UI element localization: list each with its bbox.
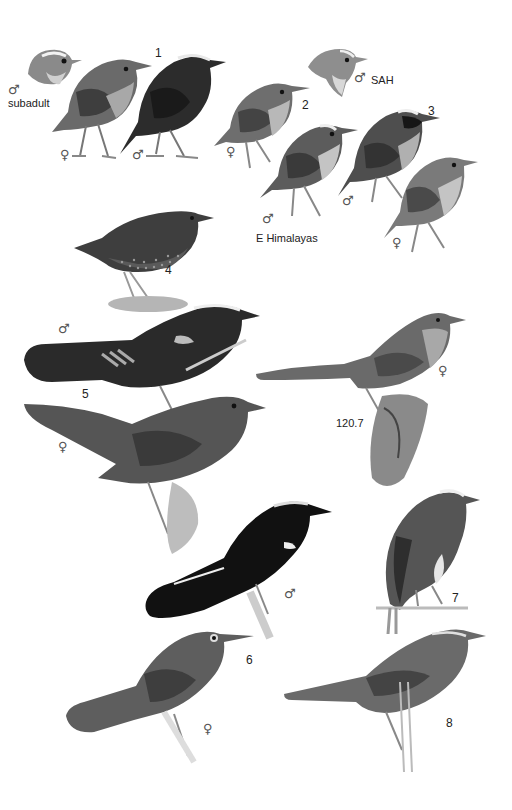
male-symbol: ♂ xyxy=(132,148,144,161)
female-symbol: ♀ xyxy=(203,722,213,735)
label-species-1: 1 xyxy=(155,47,162,59)
label-species-6: 6 xyxy=(246,654,253,666)
male-symbol: ♂ xyxy=(354,71,366,84)
label-sah: SAH xyxy=(371,75,394,86)
male-symbol: ♂ xyxy=(342,194,354,207)
bird-8-illustration xyxy=(282,622,486,772)
label-species-4: 4 xyxy=(165,264,172,276)
label-species-2: 2 xyxy=(302,99,309,111)
label-species-7: 7 xyxy=(452,592,459,604)
bird-120-7-illustration xyxy=(254,308,466,504)
label-subadult: subadult xyxy=(8,98,50,109)
male-symbol: ♂ xyxy=(8,83,20,96)
label-120-7: 120.7 xyxy=(336,418,364,429)
label-species-3: 3 xyxy=(428,105,435,117)
bird-plate: ♂ subadult ♀ 1 ♂ ♂ SAH ♀ 2 xyxy=(0,0,512,810)
bird-7-illustration xyxy=(376,484,480,634)
bird-6-male-illustration xyxy=(144,498,334,638)
bird-6-female-illustration xyxy=(64,622,256,762)
female-symbol: ♀ xyxy=(438,364,448,377)
female-symbol: ♀ xyxy=(60,148,70,161)
male-symbol: ♂ xyxy=(262,212,274,225)
female-symbol: ♀ xyxy=(226,145,236,158)
male-symbol: ♂ xyxy=(284,587,296,600)
label-e-himalayas: E Himalayas xyxy=(256,233,318,244)
bird-4-illustration xyxy=(72,194,216,314)
label-species-8: 8 xyxy=(446,717,453,729)
female-symbol: ♀ xyxy=(392,236,402,249)
